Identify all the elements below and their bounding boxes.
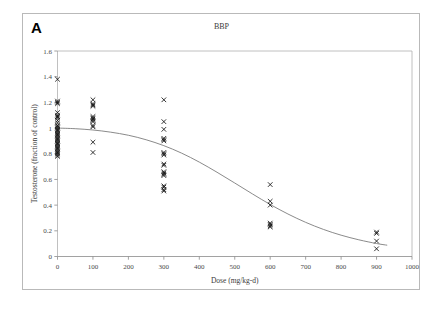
y-tick-label: 0.2 — [43, 227, 52, 235]
data-marker — [374, 246, 379, 251]
data-marker — [268, 199, 273, 204]
scatter-plot: 01002003004005006007008009001000 00.20.4… — [0, 0, 443, 313]
x-axis-title: Dose (mg/kg-d) — [211, 276, 259, 285]
y-tick-label: 0.4 — [43, 202, 52, 210]
figure-panel: A BBP 01002003004005006007008009001000 0… — [0, 0, 443, 313]
plot-area-border — [58, 51, 413, 257]
data-marker — [91, 98, 96, 103]
y-tick-label: 1.6 — [43, 48, 52, 56]
data-marker — [91, 140, 96, 145]
x-tick-label: 200 — [123, 263, 134, 271]
axis-tick-marks — [54, 51, 412, 260]
x-tick-label: 600 — [265, 263, 276, 271]
y-tick-label: 1.4 — [43, 73, 52, 81]
x-tick-label: 0 — [56, 263, 60, 271]
x-tick-label: 800 — [336, 263, 347, 271]
y-axis-tick-labels: 00.20.40.60.811.21.41.6 — [43, 48, 52, 262]
axis-titles: Dose (mg/kg-d)Testosterone (fraction of … — [30, 104, 260, 285]
x-tick-label: 300 — [159, 263, 170, 271]
y-tick-label: 0.8 — [43, 150, 52, 158]
data-marker — [162, 127, 167, 132]
y-tick-label: 0.6 — [43, 176, 52, 184]
x-tick-label: 700 — [300, 263, 311, 271]
data-markers — [55, 77, 379, 251]
data-marker — [91, 150, 96, 155]
data-marker — [162, 119, 167, 124]
x-axis-tick-labels: 01002003004005006007008009001000 — [56, 263, 420, 271]
x-tick-label: 1000 — [405, 263, 420, 271]
x-tick-label: 100 — [88, 263, 99, 271]
data-marker — [374, 239, 379, 244]
fit-curve — [58, 128, 388, 245]
dose-response-curve — [58, 128, 388, 245]
x-tick-label: 500 — [230, 263, 241, 271]
y-tick-label: 1.2 — [43, 99, 52, 107]
x-tick-label: 900 — [371, 263, 382, 271]
y-axis-title: Testosterone (fraction of control) — [30, 104, 39, 204]
y-tick-label: 1 — [49, 125, 53, 133]
data-marker — [268, 182, 273, 187]
data-marker — [162, 98, 167, 103]
y-tick-label: 0 — [49, 253, 53, 261]
x-tick-label: 400 — [194, 263, 205, 271]
